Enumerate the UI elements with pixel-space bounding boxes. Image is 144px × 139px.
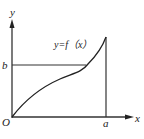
b-label: b [2,59,8,71]
graph-svg: y x O b a y=f（x） [0,0,144,139]
curve-label: y=f（x） [53,39,92,50]
x-axis-label: x [134,112,140,124]
y-axis-label: y [9,6,15,18]
a-label: a [103,117,109,129]
y-axis-arrow-icon [10,19,15,28]
function-graph-diagram: y x O b a y=f（x） [0,0,144,139]
x-axis-arrow-icon [125,115,134,120]
origin-label: O [2,116,10,128]
